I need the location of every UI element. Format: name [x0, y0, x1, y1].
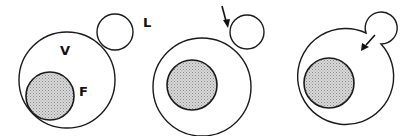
panel-3	[298, 12, 398, 124]
food-particle-circle	[26, 72, 74, 120]
food-label: F	[79, 84, 88, 99]
lysosome-circle	[97, 14, 133, 50]
arrow-icon	[222, 6, 230, 28]
food-particle-circle	[167, 60, 217, 110]
lysosome-label: L	[143, 15, 151, 30]
fusion-diagram: V F L	[0, 0, 416, 136]
arrow-icon	[361, 35, 375, 51]
vesicle-label: V	[60, 43, 70, 58]
food-particle-circle	[304, 58, 354, 108]
panel-2	[153, 6, 264, 136]
lysosome-circle	[230, 15, 264, 49]
panel-1: V F L	[19, 14, 151, 128]
